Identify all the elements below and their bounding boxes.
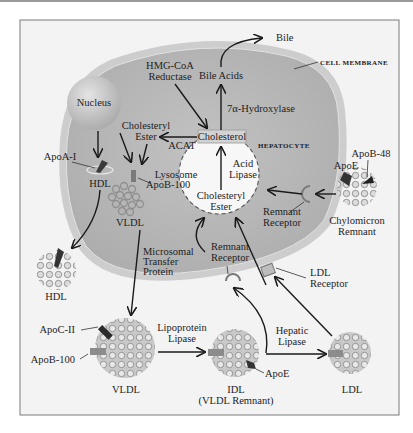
lpl-line2: Lipase xyxy=(168,333,196,344)
chylo-apoe-label: ApoE xyxy=(334,160,359,171)
hydroxylase-label: 7α-Hydroxylase xyxy=(227,103,295,114)
vldl-apob100-label: ApoB-100 xyxy=(31,354,75,365)
lpl-line1: Lipoprotein xyxy=(157,322,207,333)
apoc2-label: ApoC-II xyxy=(39,324,75,335)
lipoprotein-metabolism-diagram: Nucleus Lysosome Cholesterol Bile Acids … xyxy=(0,0,413,433)
hepatic-lipase-line1: Hepatic xyxy=(276,325,309,336)
inner-apob100-label: ApoB-100 xyxy=(146,179,190,190)
idl-apoe-label: ApoE xyxy=(265,368,290,379)
chylo-apob48-label: ApoB-48 xyxy=(351,148,390,159)
cell-membrane-label: CELL MEMBRANE xyxy=(320,59,388,67)
mtp-line3: Protein xyxy=(143,266,174,277)
lysosome-cholesteryl-ester-line1: Cholesteryl xyxy=(197,190,245,201)
inner-vldl-label: VLDL xyxy=(116,217,144,228)
acid-lipase-line1: Acid xyxy=(233,158,254,169)
right-remnant-line1: Remnant xyxy=(263,206,301,217)
acat-label: ACAT xyxy=(168,140,196,151)
ldl-receptor-line2: Receptor xyxy=(310,278,348,289)
outer-hdl-label: HDL xyxy=(45,291,67,302)
bile-label: Bile xyxy=(276,32,294,43)
ldl-apob100-marker xyxy=(328,350,343,357)
chylomicron-remnant-particle xyxy=(337,167,377,207)
vldl-apob100-marker xyxy=(90,348,106,355)
outer-hdl-particle xyxy=(36,250,76,290)
inner-hdl-label: HDL xyxy=(89,178,111,189)
idl-apob100-marker xyxy=(208,349,224,356)
inner-remnant-line2: Receptor xyxy=(211,252,249,263)
nucleus-label: Nucleus xyxy=(77,97,111,108)
ldl-label: LDL xyxy=(342,384,362,395)
bile-acids-label: Bile Acids xyxy=(199,70,243,81)
chylo-label-line2: Remnant xyxy=(338,226,376,237)
idl-label-line2: (VLDL Remnant) xyxy=(198,395,274,407)
right-remnant-line2: Receptor xyxy=(263,217,301,228)
chylo-label-line1: Chylomicron xyxy=(329,215,385,226)
hmg-coa-label-line2: Reductase xyxy=(148,71,191,82)
inner-apob100-marker xyxy=(131,170,136,182)
lysosome-cholesteryl-ester-line2: Ester xyxy=(210,201,232,212)
apoa1-label: ApoA-I xyxy=(44,151,77,162)
outer-vldl-label: VLDL xyxy=(112,384,140,395)
nucleus: Nucleus xyxy=(67,76,121,130)
cholesteryl-ester-top-line2: Ester xyxy=(135,131,157,142)
inner-remnant-line1: Remnant xyxy=(211,241,249,252)
acid-lipase-line2: Lipase xyxy=(229,169,257,180)
cholesteryl-ester-top-line1: Cholesteryl xyxy=(122,120,170,131)
ldl-receptor-line1: LDL xyxy=(310,267,330,278)
hmg-coa-label-line1: HMG-CoA xyxy=(146,60,194,71)
cholesterol-label: Cholesterol xyxy=(198,131,246,142)
idl-label-line1: IDL xyxy=(227,384,245,395)
hepatocyte-label: HEPATOCYTE xyxy=(258,142,310,150)
hepatic-lipase-line2: Lipase xyxy=(278,336,306,347)
